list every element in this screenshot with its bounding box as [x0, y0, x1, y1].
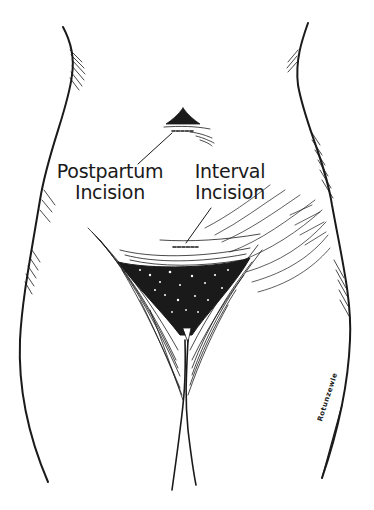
postpartum-label-line1: Postpartum — [52, 161, 168, 182]
abdomen-illustration: Postpartum Incision Interval Incision Ro… — [0, 0, 374, 510]
postpartum-incision-label: Postpartum Incision — [52, 161, 168, 203]
interval-label-line2: Incision — [188, 182, 272, 203]
interval-leader-line — [186, 208, 211, 243]
postpartum-label-line2: Incision — [52, 182, 168, 203]
navel — [164, 108, 214, 146]
interval-incision-label: Interval Incision — [188, 161, 272, 203]
left-body-outline — [20, 27, 73, 482]
line-drawing — [0, 0, 374, 510]
interval-label-line1: Interval — [188, 161, 272, 182]
